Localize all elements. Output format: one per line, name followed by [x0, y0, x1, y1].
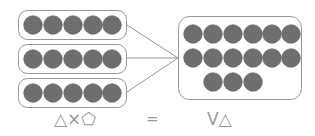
- counter: [84, 16, 103, 35]
- equation-left-operand: △×⬠: [54, 108, 96, 130]
- counter: [103, 84, 122, 103]
- counter: [64, 16, 83, 35]
- counter: [184, 25, 203, 44]
- counter: [282, 25, 301, 44]
- counter: [24, 84, 43, 103]
- counter: [24, 50, 43, 69]
- equation-equals-sign: =: [146, 108, 159, 130]
- group-2-counters: [24, 50, 122, 69]
- equation-right-operand: V△: [207, 108, 232, 130]
- counter: [24, 16, 43, 35]
- counter: [204, 49, 223, 68]
- counter: [224, 73, 243, 92]
- equal-group-2: [19, 45, 127, 74]
- group-3-counters: [24, 84, 122, 103]
- counter: [44, 16, 63, 35]
- counter: [44, 84, 63, 103]
- connector-group-1: [127, 25, 178, 58]
- counter: [103, 50, 122, 69]
- counter: [204, 73, 223, 92]
- counter: [282, 49, 301, 68]
- counter: [64, 50, 83, 69]
- counter: [263, 25, 282, 44]
- counter: [64, 84, 83, 103]
- counter: [184, 49, 203, 68]
- group-1-counters: [24, 16, 122, 35]
- counter: [244, 49, 263, 68]
- counter: [44, 50, 63, 69]
- counter: [224, 25, 243, 44]
- counter: [103, 16, 122, 35]
- counter: [204, 25, 223, 44]
- equal-group-3: [19, 79, 127, 108]
- counter: [224, 49, 243, 68]
- symbol-equation: △×⬠ = V△: [0, 105, 315, 136]
- diagram-canvas: △×⬠ = V△: [0, 0, 315, 136]
- combined-row-3: [204, 73, 263, 92]
- equal-group-1: [19, 11, 127, 40]
- combined-total-group: [179, 17, 302, 100]
- counter: [84, 84, 103, 103]
- connector-group-3: [127, 58, 178, 92]
- counter: [244, 25, 263, 44]
- group-connector-lines: [127, 25, 178, 92]
- counter: [244, 73, 263, 92]
- counter: [263, 49, 282, 68]
- counter: [84, 50, 103, 69]
